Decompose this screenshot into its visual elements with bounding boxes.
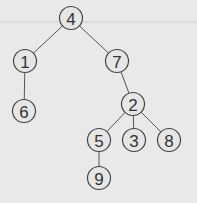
node-4: 4 — [60, 7, 83, 30]
node-label: 6 — [19, 103, 28, 122]
node-label: 1 — [20, 53, 29, 72]
node-6: 6 — [13, 100, 36, 123]
node-label: 3 — [129, 132, 138, 151]
node-label: 9 — [94, 170, 103, 189]
node-1: 1 — [14, 50, 37, 73]
node-2: 2 — [122, 93, 145, 116]
tree-diagram: 417625389 — [0, 0, 197, 203]
node-9: 9 — [88, 167, 111, 190]
node-label: 5 — [94, 132, 103, 151]
edge-4-1 — [33, 26, 62, 53]
edge-2-5 — [107, 112, 125, 131]
node-3: 3 — [123, 129, 146, 152]
edge-4-7 — [79, 26, 108, 53]
edge-7-2 — [121, 72, 129, 93]
node-5: 5 — [88, 129, 111, 152]
node-label: 2 — [128, 96, 137, 115]
nodes: 417625389 — [13, 7, 181, 190]
edge-1-6 — [24, 72, 25, 99]
node-label: 8 — [164, 132, 173, 151]
node-7: 7 — [106, 50, 129, 73]
node-label: 7 — [112, 53, 121, 72]
node-8: 8 — [158, 129, 181, 152]
edge-2-8 — [141, 112, 161, 132]
node-label: 4 — [66, 10, 75, 29]
